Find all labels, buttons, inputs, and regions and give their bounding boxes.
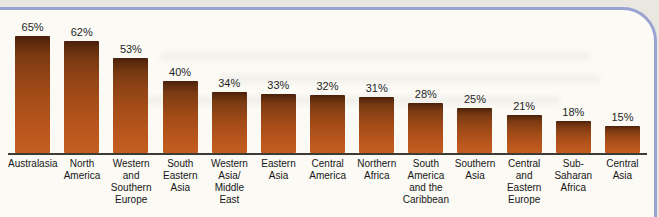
category-label-line: Africa <box>352 170 401 182</box>
category-label: NorthernAfrica <box>352 158 401 182</box>
bar-value-label: 25% <box>464 93 486 105</box>
category-label-line: and <box>107 170 156 182</box>
plot-area: 65%62%53%40%34%33%32%31%28%25%21%18%15% <box>8 20 647 155</box>
bar-value-label: 21% <box>513 100 535 112</box>
bar <box>64 41 99 153</box>
bar-column: 33% <box>254 79 303 153</box>
bar <box>605 126 640 153</box>
bar-column: 65% <box>8 21 57 153</box>
bar <box>310 95 345 153</box>
bar-column: 28% <box>401 88 450 153</box>
category-label: Australasia <box>8 158 57 170</box>
bar-value-label: 65% <box>22 21 44 33</box>
category-label-line: Eastern <box>254 158 303 170</box>
category-label: NorthAmerica <box>57 158 106 182</box>
bar-column: 25% <box>450 93 499 153</box>
category-label-line: America <box>401 170 450 182</box>
bar-value-label: 32% <box>317 80 339 92</box>
category-label-line: North <box>57 158 106 170</box>
bar-column: 31% <box>352 82 401 153</box>
category-label-line: South <box>156 158 205 170</box>
bar <box>556 121 591 153</box>
category-label-line: Asia <box>450 170 499 182</box>
category-label: WesternAsia/MiddleEast <box>205 158 254 206</box>
category-label-line: Africa <box>549 182 598 194</box>
category-label-line: Southern <box>107 182 156 194</box>
category-label-line: Asia <box>598 170 647 182</box>
category-label-line: America <box>57 170 106 182</box>
bar-value-label: 31% <box>366 82 388 94</box>
bar-value-label: 28% <box>415 88 437 100</box>
bar <box>359 97 394 153</box>
category-label-line: Sub- <box>549 158 598 170</box>
bar <box>113 58 148 153</box>
category-label-line: Western <box>205 158 254 170</box>
category-label: SouthEasternAsia <box>156 158 205 194</box>
category-label-line: Eastern <box>156 170 205 182</box>
category-label-line: Asia <box>156 182 205 194</box>
category-label: CentralAsia <box>598 158 647 182</box>
category-label-line: and <box>500 170 549 182</box>
bar-value-label: 15% <box>611 111 633 123</box>
bar-column: 34% <box>205 77 254 153</box>
category-label: CentralandEasternEurope <box>500 158 549 206</box>
bar <box>408 103 443 153</box>
category-label-line: Eastern <box>500 182 549 194</box>
category-label-line: East <box>205 194 254 206</box>
bar-value-label: 18% <box>562 106 584 118</box>
category-label-line: Australasia <box>8 158 57 170</box>
category-label-line: Middle <box>205 182 254 194</box>
category-label-line: Europe <box>500 194 549 206</box>
bar-column: 62% <box>57 26 106 153</box>
bar-column: 53% <box>106 43 155 153</box>
bar-column: 18% <box>549 106 598 153</box>
category-label-line: Asia/ <box>205 170 254 182</box>
category-label-line: Central <box>500 158 549 170</box>
bar <box>212 92 247 153</box>
bar-value-label: 53% <box>120 43 142 55</box>
bar <box>457 108 492 153</box>
category-labels: AustralasiaNorthAmericaWesternandSouther… <box>8 158 647 206</box>
category-label-line: America <box>303 170 352 182</box>
bar-column: 40% <box>155 66 204 153</box>
category-label: WesternandSouthernEurope <box>107 158 156 206</box>
category-label-line: Europe <box>107 194 156 206</box>
bar <box>163 81 198 153</box>
category-label-line: Northern <box>352 158 401 170</box>
category-label-line: and the <box>401 182 450 194</box>
bar <box>507 115 542 153</box>
scanned-page: 65%62%53%40%34%33%32%31%28%25%21%18%15% … <box>0 0 659 217</box>
category-label-line: Asia <box>254 170 303 182</box>
bar-value-label: 62% <box>71 26 93 38</box>
category-label-line: South <box>401 158 450 170</box>
bar-chart: 65%62%53%40%34%33%32%31%28%25%21%18%15% … <box>8 0 647 217</box>
bar-column: 15% <box>598 111 647 153</box>
category-label: EasternAsia <box>254 158 303 182</box>
bar <box>15 36 50 153</box>
category-label-line: Southern <box>450 158 499 170</box>
bar-value-label: 34% <box>218 77 240 89</box>
bar <box>261 94 296 153</box>
category-label-line: Saharan <box>549 170 598 182</box>
bar-value-label: 40% <box>169 66 191 78</box>
category-label: SouthAmericaand theCaribbean <box>401 158 450 206</box>
category-label: Sub-SaharanAfrica <box>549 158 598 194</box>
category-label-line: Western <box>107 158 156 170</box>
bar-value-label: 33% <box>267 79 289 91</box>
category-label-line: Central <box>598 158 647 170</box>
bar-column: 32% <box>303 80 352 153</box>
bar-column: 21% <box>500 100 549 153</box>
category-label: SouthernAsia <box>450 158 499 182</box>
category-label-line: Caribbean <box>401 194 450 206</box>
category-label-line: Central <box>303 158 352 170</box>
category-label: CentralAmerica <box>303 158 352 182</box>
